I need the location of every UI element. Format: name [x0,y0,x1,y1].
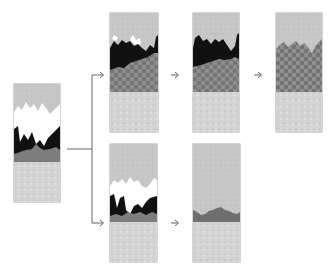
strata-bottom-2-graphic [193,144,240,262]
panel-top-3 [276,13,322,132]
panel-bottom-1 [110,144,157,262]
panel-initial [14,84,60,202]
strata-top-3-graphic [276,13,322,132]
panel-top-2 [193,13,239,132]
strata-top-2-graphic [193,13,239,132]
strata-initial-graphic [14,84,60,202]
strata-bottom-1-graphic [110,144,157,262]
panel-top-1 [110,13,158,132]
panel-bottom-2 [193,144,240,262]
strata-top-1-graphic [110,13,158,132]
